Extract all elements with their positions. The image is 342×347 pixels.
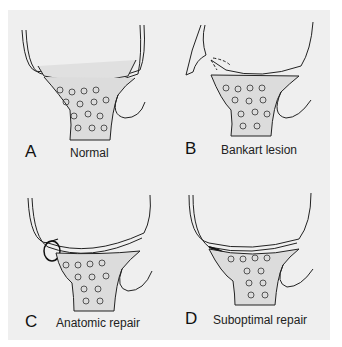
panel-c-anatomic-repair: C Anatomic repair <box>0 173 171 346</box>
panel-letter: A <box>25 142 36 162</box>
panel-letter: D <box>185 309 197 329</box>
panel-a-normal: A Normal <box>0 0 171 173</box>
panel-caption: Suboptimal repair <box>213 313 307 327</box>
panel-caption: Anatomic repair <box>56 316 140 330</box>
panel-b-bankart-lesion: B Bankart lesion <box>171 0 342 173</box>
panel-letter: C <box>25 312 37 332</box>
panel-d-suboptimal-repair: D Suboptimal repair <box>171 173 342 346</box>
panel-caption: Normal <box>70 146 109 160</box>
panel-letter: B <box>185 139 196 159</box>
panel-caption: Bankart lesion <box>221 143 297 157</box>
